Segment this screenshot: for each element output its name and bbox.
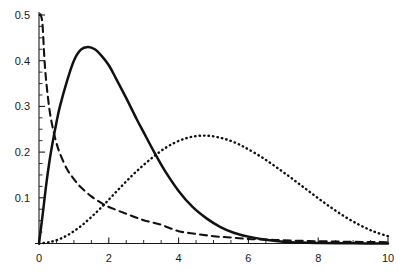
- curve-dotted: [39, 136, 388, 244]
- x-tick-labels: 0246810: [36, 252, 394, 264]
- chart-plot: 0.10.20.30.40.5 0246810: [0, 0, 401, 277]
- x-tick-label: 6: [245, 252, 251, 264]
- y-tick-label: 0.4: [15, 55, 30, 67]
- curve-solid: [39, 47, 388, 244]
- x-tick-label: 4: [176, 252, 182, 264]
- y-tick-label: 0.3: [15, 100, 30, 112]
- y-tick-label: 0.2: [15, 146, 30, 158]
- y-tick-label: 0.5: [15, 9, 30, 21]
- y-tick-labels: 0.10.20.30.40.5: [15, 9, 30, 204]
- x-tick-label: 2: [106, 252, 112, 264]
- x-tick-label: 10: [382, 252, 394, 264]
- curve-series-group: [39, 14, 388, 243]
- chart-container: 0.10.20.30.40.5 0246810: [0, 0, 401, 277]
- x-tick-label: 8: [315, 252, 321, 264]
- y-tick-label: 0.1: [15, 192, 30, 204]
- x-tick-label: 0: [36, 252, 42, 264]
